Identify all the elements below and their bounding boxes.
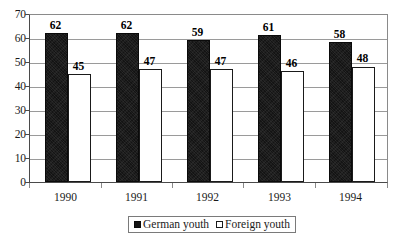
- value-label-german-1992: 59: [186, 27, 209, 39]
- legend-label-german-youth: German youth: [143, 219, 209, 231]
- y-tick-label-20: 20: [2, 129, 26, 141]
- x-tickmark-1: [101, 183, 102, 188]
- chart-legend: German youth Foreign youth: [128, 216, 296, 233]
- bar-german-youth-1990[interactable]: [45, 33, 68, 182]
- bar-foreign-youth-1991[interactable]: [139, 69, 162, 182]
- bar-german-youth-1994[interactable]: [329, 42, 352, 182]
- legend-item-german-youth[interactable]: German youth: [134, 219, 209, 231]
- hollow-square-icon: [216, 221, 223, 228]
- bar-german-youth-1991[interactable]: [116, 33, 139, 182]
- x-tickmark-4: [315, 183, 316, 188]
- value-label-foreign-1993: 46: [280, 58, 303, 70]
- x-tickmark-3: [243, 183, 244, 188]
- y-tick-label-40: 40: [2, 81, 26, 93]
- x-tick-label-1993: 1993: [250, 191, 309, 203]
- y-tick-label-50: 50: [2, 57, 26, 69]
- y-tick-label-30: 30: [2, 105, 26, 117]
- bar-foreign-youth-1993[interactable]: [281, 71, 304, 182]
- y-tick-label-0: 0: [2, 177, 26, 189]
- value-label-foreign-1994: 48: [351, 53, 374, 65]
- value-label-german-1993: 61: [257, 22, 280, 34]
- x-tick-label-1991: 1991: [107, 191, 166, 203]
- bar-german-youth-1993[interactable]: [258, 35, 281, 182]
- x-tick-label-1992: 1992: [178, 191, 237, 203]
- legend-label-foreign-youth: Foreign youth: [225, 219, 290, 231]
- x-tick-label-1990: 1990: [36, 191, 95, 203]
- value-label-german-1990: 62: [44, 20, 67, 32]
- bar-foreign-youth-1990[interactable]: [68, 74, 91, 182]
- value-label-foreign-1991: 47: [138, 56, 161, 68]
- filled-square-icon: [134, 221, 141, 228]
- bar-foreign-youth-1992[interactable]: [210, 69, 233, 182]
- bar-chart: 70 60 50 40 30 20 10 0: [0, 0, 403, 245]
- y-tick-label-10: 10: [2, 153, 26, 165]
- legend-item-foreign-youth[interactable]: Foreign youth: [216, 219, 290, 231]
- x-tick-label-1994: 1994: [321, 191, 380, 203]
- x-tickmark-0: [29, 183, 30, 188]
- x-tickmark-5: [387, 183, 388, 188]
- y-tick-label-70: 70: [2, 9, 26, 21]
- value-label-german-1991: 62: [115, 20, 138, 32]
- bar-foreign-youth-1994[interactable]: [352, 67, 375, 183]
- x-tickmark-2: [172, 183, 173, 188]
- y-tick-label-60: 60: [2, 33, 26, 45]
- value-label-foreign-1992: 47: [209, 56, 232, 68]
- value-label-german-1994: 58: [328, 29, 351, 41]
- bar-german-youth-1992[interactable]: [187, 40, 210, 182]
- y-axis: 70 60 50 40 30 20 10 0: [0, 0, 26, 245]
- value-label-foreign-1990: 45: [67, 61, 90, 73]
